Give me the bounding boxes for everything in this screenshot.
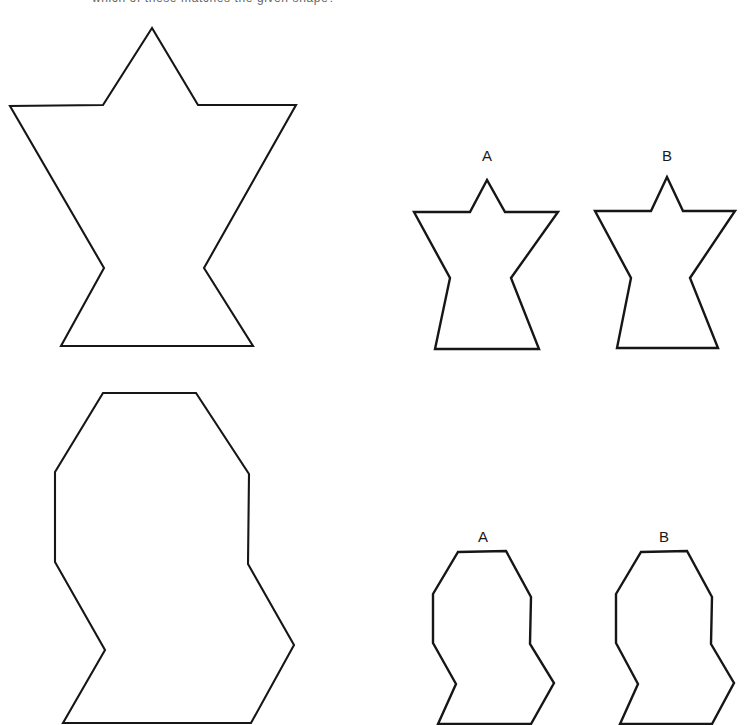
option-b-blob-label: B <box>659 528 669 545</box>
option-b-blob[interactable] <box>616 551 734 724</box>
shape-comparison-figure: which of these matches the given shape? … <box>0 0 753 725</box>
figure-canvas: A B A B <box>0 0 753 725</box>
option-a-star-label: A <box>482 147 492 164</box>
top-row-group: A B <box>10 28 735 349</box>
option-a-blob[interactable] <box>433 551 554 724</box>
option-b-star[interactable] <box>595 177 735 348</box>
reference-star-shape <box>10 28 296 346</box>
bottom-row-group: A B <box>55 393 734 724</box>
option-a-blob-label: A <box>478 528 488 545</box>
option-b-star-label: B <box>662 147 672 164</box>
option-a-star[interactable] <box>414 180 558 349</box>
reference-blob-shape <box>55 393 294 723</box>
